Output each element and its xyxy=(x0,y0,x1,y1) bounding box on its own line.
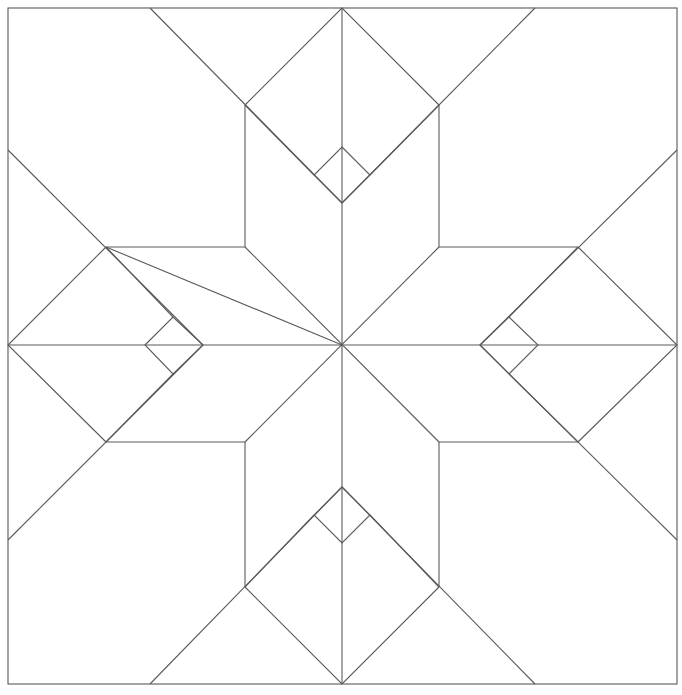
quilt-block-diagram xyxy=(0,0,682,695)
center-diag-1 xyxy=(106,247,342,345)
